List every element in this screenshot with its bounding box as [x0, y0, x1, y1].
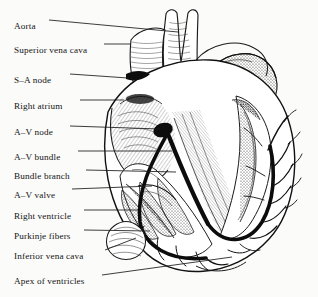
label-aorta: Aorta: [14, 22, 36, 31]
label-av-valve: A–V valve: [14, 191, 55, 200]
label-av-node: A–V node: [14, 128, 53, 137]
label-right-atrium: Right atrium: [14, 102, 63, 111]
label-superior-vena-cava: Superior vena cava: [14, 46, 87, 55]
inferior-vena-cava-vessel: [107, 222, 146, 260]
label-inferior-vena-cava: Inferior vena cava: [14, 252, 84, 261]
label-right-ventricle: Right ventricle: [14, 212, 71, 221]
label-apex-of-ventricles: Apex of ventricles: [14, 277, 85, 286]
label-sa-node: S–A node: [14, 76, 51, 85]
label-purkinje-fibers: Purkinje fibers: [14, 232, 71, 241]
leader-sa-node: [70, 74, 128, 78]
label-bundle-branch: Bundle branch: [14, 172, 70, 181]
label-av-bundle: A–V bundle: [14, 153, 61, 162]
leader-aorta: [49, 20, 178, 32]
heart-conduction-diagram: AortaSuperior vena cavaS–A nodeRight atr…: [0, 0, 318, 297]
